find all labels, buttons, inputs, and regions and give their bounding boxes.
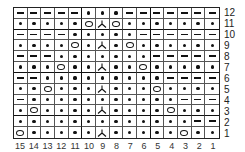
knit-symbol-icon <box>114 55 117 58</box>
chart-cell <box>178 127 192 138</box>
purl-symbol-icon <box>44 34 51 36</box>
knit-symbol-icon <box>142 22 145 25</box>
row-number: 10 <box>224 29 244 40</box>
knit-symbol-icon <box>87 109 90 112</box>
chart-cell <box>14 30 28 41</box>
knit-symbol-icon <box>196 22 199 25</box>
column-number-labels: 151413121110987654321 <box>13 141 220 151</box>
chart-cell <box>178 73 192 84</box>
column-number: 3 <box>179 141 193 151</box>
row-number: 2 <box>224 117 244 128</box>
chart-cell <box>41 73 55 84</box>
yarn-over-symbol-icon <box>85 21 93 27</box>
chart-cell <box>178 30 192 41</box>
chart-cell <box>14 105 28 116</box>
chart-cell <box>55 51 69 62</box>
purl-symbol-icon <box>17 34 24 36</box>
chart-cell <box>205 40 219 51</box>
chart-cell <box>14 40 28 51</box>
purl-symbol-icon <box>58 34 65 36</box>
chart-cell <box>28 30 42 41</box>
chart-cell <box>82 127 96 138</box>
chart-cell <box>14 51 28 62</box>
chart-cell <box>69 73 83 84</box>
chart-cell <box>164 127 178 138</box>
chart-cell <box>192 19 206 30</box>
knit-symbol-icon <box>46 22 49 25</box>
chart-cell <box>96 127 110 138</box>
knit-symbol-icon <box>73 131 76 134</box>
knit-symbol-icon <box>46 76 49 79</box>
purl-symbol-icon <box>30 55 37 57</box>
chart-cell <box>55 8 69 19</box>
chart-cell <box>192 62 206 73</box>
purl-symbol-icon <box>58 12 65 14</box>
chart-cell <box>164 84 178 95</box>
knit-symbol-icon <box>169 131 172 134</box>
purl-symbol-icon <box>153 12 160 14</box>
knit-symbol-icon <box>114 33 117 36</box>
chart-cell <box>151 8 165 19</box>
knit-symbol-icon <box>73 120 76 123</box>
purl-symbol-icon <box>167 55 174 57</box>
knit-symbol-icon <box>19 65 22 68</box>
row-number: 1 <box>224 128 244 139</box>
chart-cell <box>110 8 124 19</box>
knit-symbol-icon <box>114 11 117 14</box>
yarn-over-symbol-icon <box>16 130 24 136</box>
knit-symbol-icon <box>114 76 117 79</box>
knit-symbol-icon <box>19 87 22 90</box>
column-number: 4 <box>165 141 179 151</box>
knit-symbol-icon <box>46 44 49 47</box>
chart-cell <box>28 19 42 30</box>
chart-cell <box>110 95 124 106</box>
chart-cell <box>137 19 151 30</box>
chart-cell <box>178 19 192 30</box>
chart-cell <box>164 73 178 84</box>
knit-symbol-icon <box>32 22 35 25</box>
chart-cell <box>110 51 124 62</box>
knit-symbol-icon <box>87 11 90 14</box>
purl-symbol-icon <box>181 55 188 57</box>
chart-cell <box>110 116 124 127</box>
purl-symbol-icon <box>209 77 216 79</box>
chart-cell <box>28 95 42 106</box>
chart-cell <box>123 95 137 106</box>
knit-symbol-icon <box>128 120 131 123</box>
chart-cell <box>192 127 206 138</box>
double-decrease-symbol-icon <box>97 85 107 93</box>
purl-symbol-icon <box>209 12 216 14</box>
knit-symbol-icon <box>142 109 145 112</box>
chart-cell <box>14 84 28 95</box>
chart-cell <box>96 73 110 84</box>
knit-symbol-icon <box>101 120 104 123</box>
chart-cell <box>164 116 178 127</box>
chart-cell <box>96 84 110 95</box>
chart-cell <box>110 19 124 30</box>
knit-symbol-icon <box>60 98 63 101</box>
chart-cell <box>164 51 178 62</box>
chart-cell <box>69 116 83 127</box>
chart-cell <box>110 73 124 84</box>
chart-cell <box>205 30 219 41</box>
chart-cell <box>41 51 55 62</box>
knit-symbol-icon <box>211 22 214 25</box>
chart-cell <box>14 127 28 138</box>
knit-symbol-icon <box>183 65 186 68</box>
purl-symbol-icon <box>153 34 160 36</box>
purl-symbol-icon <box>209 34 216 36</box>
knit-symbol-icon <box>87 120 90 123</box>
chart-cell <box>55 127 69 138</box>
purl-symbol-icon <box>44 12 51 14</box>
chart-cell <box>205 84 219 95</box>
chart-cell <box>82 8 96 19</box>
knit-symbol-icon <box>142 87 145 90</box>
chart-cell <box>178 62 192 73</box>
chart-cell <box>164 105 178 116</box>
chart-cell <box>55 19 69 30</box>
knit-symbol-icon <box>155 98 158 101</box>
purl-symbol-icon <box>194 34 201 36</box>
knit-symbol-icon <box>19 44 22 47</box>
column-number: 10 <box>82 141 96 151</box>
chart-cell <box>123 51 137 62</box>
